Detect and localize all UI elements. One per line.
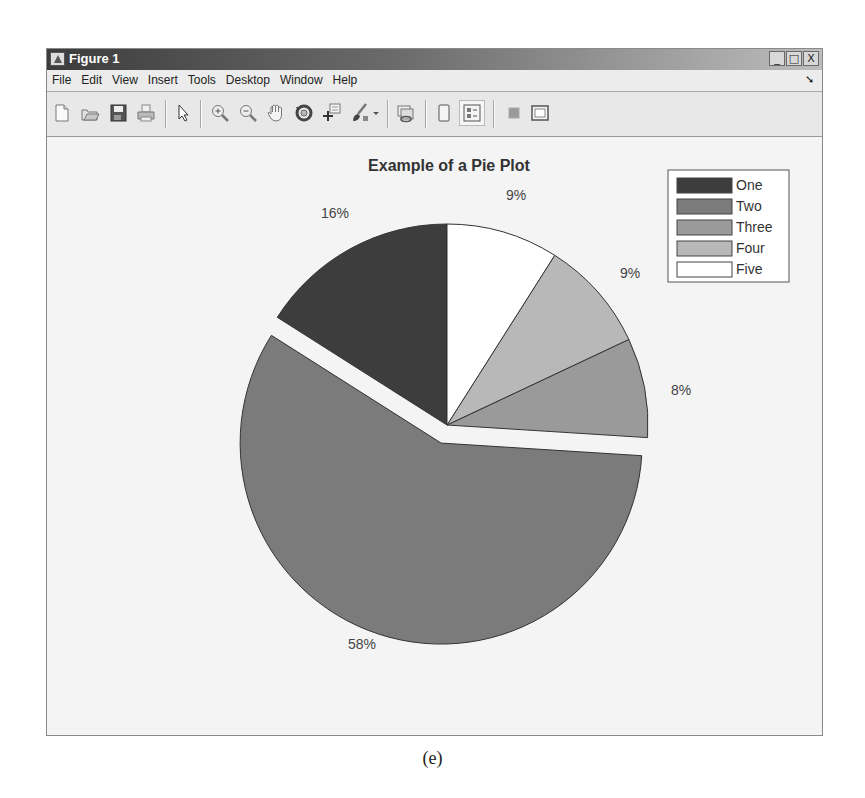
menu-view[interactable]: View xyxy=(107,70,143,87)
data-cursor-icon xyxy=(321,102,343,124)
open-file-icon xyxy=(79,102,101,124)
hide-plot-tools-button[interactable] xyxy=(433,102,455,124)
edit-plot-arrow-icon xyxy=(172,102,194,124)
zoom-in-button[interactable] xyxy=(209,102,231,124)
legend-label-four: Four xyxy=(736,240,765,256)
menu-desktop[interactable]: Desktop xyxy=(221,70,275,87)
insert-colorbar-icon xyxy=(503,102,525,124)
legend-label-three: Three xyxy=(736,219,773,235)
print-icon xyxy=(135,102,157,124)
menu-bar: FileEditViewInsertToolsDesktopWindowHelp… xyxy=(47,70,822,92)
zoom-in-icon xyxy=(209,102,231,124)
rotate-3d-icon xyxy=(293,102,315,124)
matlab-logo-icon xyxy=(50,52,65,66)
chart-title: Example of a Pie Plot xyxy=(368,157,531,174)
legend[interactable]: One Two Three Four Five xyxy=(668,170,789,282)
toolbar-separator xyxy=(165,100,167,128)
menu-window[interactable]: Window xyxy=(275,70,328,87)
legend-swatch-three xyxy=(677,220,732,235)
insert-colorbar-button[interactable] xyxy=(503,102,525,124)
figure-caption: (e) xyxy=(0,748,865,769)
slice-label-five: 9% xyxy=(506,187,526,203)
legend-swatch-four xyxy=(677,241,732,256)
toolbar-separator xyxy=(200,100,202,128)
pie-slices xyxy=(240,224,648,644)
title-bar[interactable]: Figure 1 _ □ X xyxy=(47,49,822,70)
dock-arrow-icon[interactable]: ➘ xyxy=(805,73,814,86)
legend-label-two: Two xyxy=(736,198,762,214)
hide-plot-tools-icon xyxy=(433,102,455,124)
legend-swatch-one xyxy=(677,178,732,193)
figure-window: Figure 1 _ □ X FileEditViewInsertToolsDe… xyxy=(46,48,823,736)
zoom-out-icon xyxy=(237,102,259,124)
open-file-button[interactable] xyxy=(79,102,101,124)
menu-edit[interactable]: Edit xyxy=(76,70,107,87)
new-figure-icon xyxy=(51,102,73,124)
pie-chart: Example of a Pie Plot 16% 58% 8% 9% 9% O… xyxy=(47,137,822,735)
close-button[interactable]: X xyxy=(803,51,819,66)
insert-legend-button[interactable] xyxy=(529,102,551,124)
toolbar-separator xyxy=(493,100,495,128)
brush-dropdown-icon xyxy=(371,102,381,124)
legend-swatch-five xyxy=(677,262,732,277)
zoom-out-button[interactable] xyxy=(237,102,259,124)
maximize-button[interactable]: □ xyxy=(786,51,802,66)
rotate-3d-button[interactable] xyxy=(293,102,315,124)
link-plot-button[interactable] xyxy=(395,102,417,124)
toolbar-separator xyxy=(425,100,427,128)
minimize-button[interactable]: _ xyxy=(769,51,785,66)
new-figure-button[interactable] xyxy=(51,102,73,124)
menu-file[interactable]: File xyxy=(47,70,76,87)
menu-insert[interactable]: Insert xyxy=(143,70,183,87)
figure-toolbar xyxy=(47,92,822,137)
data-cursor-button[interactable] xyxy=(321,102,343,124)
menu-tools[interactable]: Tools xyxy=(183,70,221,87)
print-button[interactable] xyxy=(135,102,157,124)
insert-legend-icon xyxy=(529,102,551,124)
figure-canvas: Example of a Pie Plot 16% 58% 8% 9% 9% O… xyxy=(47,137,822,735)
slice-label-four: 9% xyxy=(620,265,640,281)
slice-label-three: 8% xyxy=(671,382,691,398)
slice-label-one: 16% xyxy=(321,205,349,221)
window-title: Figure 1 xyxy=(69,51,120,66)
show-plot-tools-button[interactable] xyxy=(459,100,485,126)
save-button[interactable] xyxy=(107,102,129,124)
pan-button[interactable] xyxy=(265,102,287,124)
link-plot-icon xyxy=(395,102,417,124)
brush-dropdown-button[interactable] xyxy=(371,102,381,124)
edit-plot-button[interactable] xyxy=(172,102,194,124)
save-icon xyxy=(107,102,129,124)
menu-help[interactable]: Help xyxy=(328,70,363,87)
legend-swatch-two xyxy=(677,199,732,214)
brush-button[interactable] xyxy=(349,102,371,124)
legend-label-one: One xyxy=(736,177,763,193)
toolbar-separator xyxy=(387,100,389,128)
legend-label-five: Five xyxy=(736,261,763,277)
brush-icon xyxy=(349,102,371,124)
show-plot-tools-icon xyxy=(460,101,484,125)
slice-label-two: 58% xyxy=(348,636,376,652)
pan-hand-icon xyxy=(265,102,287,124)
